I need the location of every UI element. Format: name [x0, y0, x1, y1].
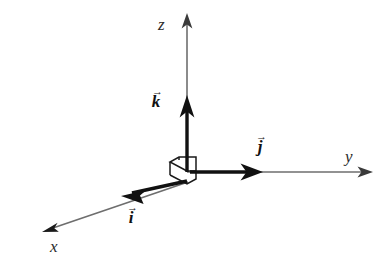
- z-axis-label: z: [158, 16, 165, 33]
- axis-lines-group: [50, 22, 364, 229]
- basis-vector-shafts-group: [132, 104, 252, 193]
- x-axis-label: x: [50, 238, 58, 255]
- cube-top-face: [170, 157, 196, 171]
- i-vector-arrow-accent-icon: →: [127, 204, 137, 210]
- k-vector-arrow-accent-icon: →: [152, 88, 162, 94]
- j-vector-label: → j: [255, 133, 265, 155]
- basis-vector-arrowheads-group: [121, 95, 263, 204]
- x-axis-line: [50, 182, 188, 229]
- coordinate-axes-figure: z y x → k → j → i: [0, 0, 378, 268]
- y-axis-label: y: [345, 148, 353, 165]
- axis-arrowheads-group: [42, 13, 373, 232]
- j-vector-arrow-accent-icon: →: [256, 133, 266, 139]
- k-vector-label: → k: [151, 88, 161, 110]
- i-vector-label: → i: [126, 204, 136, 226]
- axes-diagram-svg: [0, 0, 378, 268]
